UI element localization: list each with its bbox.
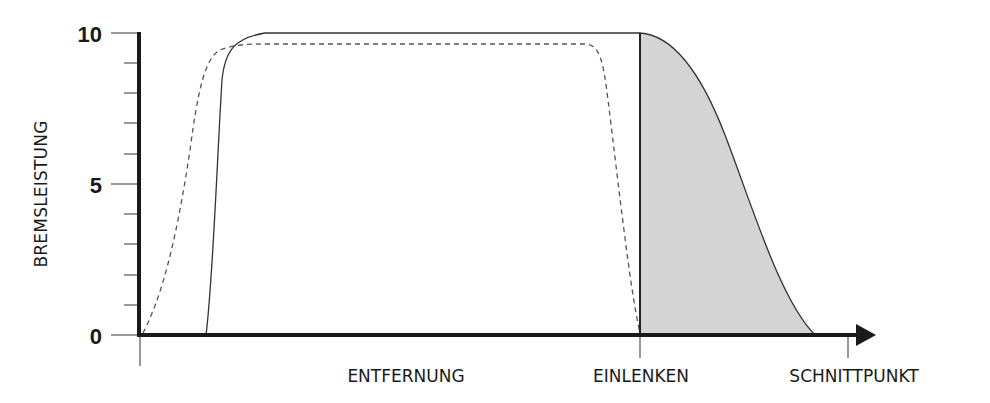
x-label-entfernung: ENTFERNUNG xyxy=(347,366,464,386)
y-minor-ticks xyxy=(111,33,139,335)
x-label-schnittpunkt: SCHNITTPUNKT xyxy=(789,366,919,386)
shaded-area xyxy=(640,33,815,335)
y-axis-title: BREMSLEISTUNG xyxy=(31,120,51,267)
x-axis-arrow-icon xyxy=(856,324,876,346)
y-tick-label-0: 0 xyxy=(90,324,102,349)
y-tick-label-5: 5 xyxy=(90,173,102,198)
x-marker-ticks xyxy=(140,335,848,366)
x-label-einlenken: EINLENKEN xyxy=(593,366,689,386)
y-tick-label-10: 10 xyxy=(78,22,102,47)
braking-performance-chart: 10 5 0 BREMSLEISTUNG ENTFERNUNG EINLENKE… xyxy=(0,0,990,403)
dashed-curve xyxy=(143,44,640,333)
